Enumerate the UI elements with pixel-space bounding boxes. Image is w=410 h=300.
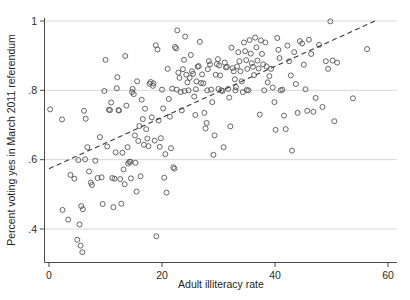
data-point (313, 95, 318, 100)
data-point (305, 108, 310, 113)
data-point (235, 64, 240, 69)
data-point (158, 136, 163, 141)
data-point (105, 144, 110, 149)
data-point (164, 190, 169, 195)
data-point (260, 51, 265, 56)
data-point (160, 87, 165, 92)
data-point (133, 160, 138, 165)
data-point (162, 175, 167, 180)
data-point (272, 100, 277, 105)
y-tick-label: .4 (28, 223, 37, 235)
data-point (152, 138, 157, 143)
data-point (85, 145, 90, 150)
data-point (66, 217, 71, 222)
data-point (295, 110, 300, 115)
data-point (273, 127, 278, 132)
data-point (257, 112, 262, 117)
x-tick-label: 20 (156, 269, 168, 281)
gridlines (45, 21, 398, 229)
data-point (68, 172, 73, 177)
data-point (163, 152, 168, 157)
data-point (166, 97, 171, 102)
data-point (118, 177, 123, 182)
data-point (248, 51, 253, 56)
data-point (245, 66, 250, 71)
data-point (228, 124, 233, 129)
data-point (232, 77, 237, 82)
data-point (200, 72, 205, 77)
data-point (365, 47, 370, 52)
data-point (229, 45, 234, 50)
data-point (119, 201, 124, 206)
data-point (254, 45, 259, 50)
data-point (122, 182, 127, 187)
data-point (335, 60, 340, 65)
data-point (241, 40, 246, 45)
data-point (121, 167, 126, 172)
data-point (115, 75, 120, 80)
data-point (256, 66, 261, 71)
data-point (204, 120, 209, 125)
data-point (149, 115, 154, 120)
data-point (192, 94, 197, 99)
y-tick-label: 1 (31, 15, 37, 27)
y-axis-ticks: .4.6.81 (28, 15, 44, 235)
data-point (293, 82, 298, 87)
data-point (154, 234, 159, 239)
data-point (309, 51, 314, 56)
data-point (280, 87, 285, 92)
data-point (283, 127, 288, 132)
data-point (137, 124, 142, 129)
data-point (221, 145, 226, 150)
data-point (59, 117, 64, 122)
data-point (244, 58, 249, 63)
data-point (270, 85, 275, 90)
data-point (172, 166, 177, 171)
data-point (82, 108, 87, 113)
data-point (77, 222, 82, 227)
data-point (83, 116, 88, 121)
data-point (161, 106, 166, 111)
data-point (253, 35, 258, 40)
data-point (135, 79, 140, 84)
data-point (292, 50, 297, 55)
data-point (97, 135, 102, 140)
data-point (109, 100, 114, 105)
data-point (193, 112, 198, 117)
data-point (202, 110, 207, 115)
data-point (208, 62, 213, 67)
data-point (237, 59, 242, 64)
data-point (255, 58, 260, 63)
data-point (276, 47, 281, 52)
data-point (282, 113, 287, 118)
data-point (231, 69, 236, 74)
data-point (285, 43, 290, 48)
data-point (125, 145, 130, 150)
data-point (177, 75, 182, 80)
data-point (247, 38, 252, 43)
data-point (102, 89, 107, 94)
data-point (48, 107, 53, 112)
data-point (288, 73, 293, 78)
y-tick-label: .6 (28, 153, 37, 165)
data-point (176, 70, 181, 75)
data-point (128, 176, 133, 181)
data-point (100, 202, 105, 207)
data-point (174, 46, 179, 51)
data-point (212, 133, 217, 138)
data-point (277, 56, 282, 61)
data-point (205, 67, 210, 72)
data-point (243, 49, 248, 54)
scatter-plot-figure: .4.6.81 0204060 Adult illiteracy rate Pe… (0, 0, 410, 300)
data-point (144, 127, 149, 132)
data-point (215, 57, 220, 62)
y-tick-label: .8 (28, 84, 37, 96)
x-tick-label: 40 (269, 269, 281, 281)
data-point (136, 138, 141, 143)
data-point (203, 126, 208, 131)
data-point (143, 106, 148, 111)
data-point (169, 146, 174, 151)
data-point (238, 69, 243, 74)
data-point (111, 205, 116, 210)
y-axis-title: Percent voting yes in March 2011 referen… (5, 34, 17, 246)
